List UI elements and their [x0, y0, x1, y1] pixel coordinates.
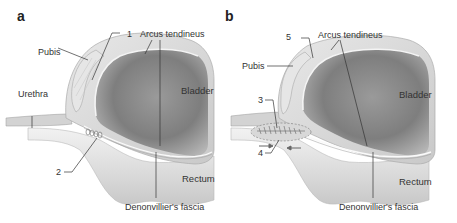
label-denonvilliers-fascia: Denonvillier's fascia [339, 203, 418, 212]
panel-letter-b: b [225, 8, 234, 24]
label-pubis: Pubis [242, 62, 265, 71]
label-1: 1 [127, 30, 132, 39]
label-arcus-tendineus: Arcus tendineus [140, 30, 205, 39]
label-3: 3 [258, 96, 263, 105]
label-pubis: Pubis [38, 48, 61, 57]
label-bladder: Bladder [181, 86, 214, 96]
label-5: 5 [286, 33, 291, 42]
panel-b: b 5 Arcus tendineus Pubis Bladder 3 4 Re… [229, 0, 457, 223]
suture-region [251, 123, 311, 141]
label-rectum: Rectum [399, 177, 432, 187]
panel-letter-a: a [17, 8, 25, 24]
label-bladder: Bladder [399, 90, 432, 100]
urethra-shape [6, 114, 72, 126]
panel-a: a 1 Arcus tendineus Pubis Urethra Bladde… [0, 0, 228, 223]
label-denonvilliers-fascia: Denonvillier's fascia [125, 203, 204, 212]
bladder-interior-shape [303, 49, 429, 156]
label-4: 4 [258, 149, 263, 158]
label-rectum: Rectum [182, 174, 215, 184]
label-2: 2 [56, 168, 61, 177]
label-arcus-tendineus: Arcus tendineus [318, 31, 383, 40]
label-urethra: Urethra [18, 90, 48, 99]
